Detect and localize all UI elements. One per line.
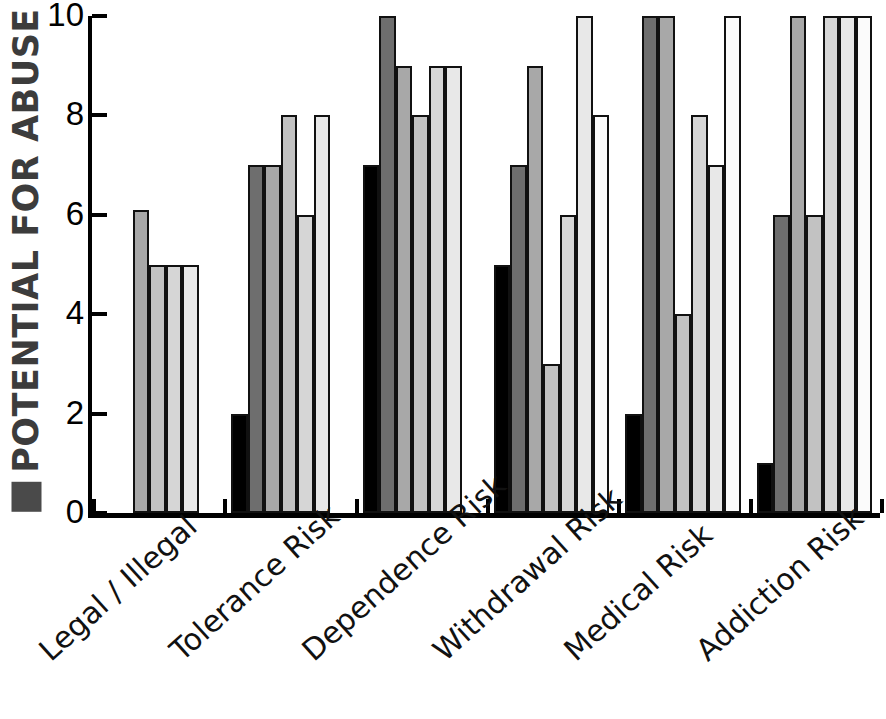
y-axis-tick-mark — [92, 412, 107, 416]
bar — [297, 215, 313, 513]
bar — [724, 16, 740, 513]
y-axis-tick-mark — [92, 113, 107, 117]
bar — [231, 414, 247, 513]
x-axis-tick-mark — [880, 499, 884, 513]
y-axis-tick-mark — [92, 14, 107, 18]
y-axis-tick-mark — [92, 312, 107, 316]
y-axis-title-label: POTENTIAL FOR ABUSE — [9, 8, 44, 473]
y-tick-label: 8 — [44, 97, 84, 130]
plot-area — [88, 16, 880, 518]
bar — [757, 463, 773, 513]
bar-chart-figure: POTENTIAL FOR ABUSE 1086420 Legal / Ille… — [0, 0, 886, 719]
bar — [412, 115, 428, 513]
y-tick-label: 10 — [44, 0, 84, 31]
x-axis-tick-mark — [92, 499, 96, 513]
bar — [264, 165, 280, 513]
bar — [314, 115, 330, 513]
bar — [133, 210, 149, 513]
y-axis-tick-mark — [92, 213, 107, 217]
bar — [642, 16, 658, 513]
bars-layer — [92, 16, 880, 513]
y-tick-label: 4 — [44, 296, 84, 329]
x-axis-category-label: Addiction Risk — [691, 502, 869, 666]
bar — [510, 165, 526, 513]
bar — [429, 66, 445, 513]
bar — [675, 314, 691, 513]
bar — [281, 115, 297, 513]
x-axis-tick-mark — [223, 499, 227, 513]
bar — [625, 414, 641, 513]
bar — [773, 215, 789, 513]
bar — [396, 66, 412, 513]
bar — [856, 16, 872, 513]
bar — [691, 115, 707, 513]
bar — [576, 16, 592, 513]
bar — [363, 165, 379, 513]
x-axis-category-labels: Legal / IllegalTolerance RiskDependence … — [0, 524, 886, 719]
bar — [823, 16, 839, 513]
bar — [790, 16, 806, 513]
bar — [543, 364, 559, 513]
y-axis-tick-labels: 1086420 — [40, 0, 84, 520]
bar — [166, 265, 182, 514]
x-axis-tick-mark — [749, 499, 753, 513]
legend-swatch-icon — [11, 482, 41, 512]
bar — [182, 265, 198, 514]
bar — [658, 16, 674, 513]
y-tick-label: 2 — [44, 396, 84, 429]
bar — [839, 16, 855, 513]
x-axis-tick-mark — [355, 499, 359, 513]
bar — [149, 265, 165, 514]
bar — [806, 215, 822, 513]
bar — [445, 66, 461, 513]
y-tick-label: 6 — [44, 197, 84, 230]
bar — [527, 66, 543, 513]
bar — [593, 115, 609, 513]
bar — [708, 165, 724, 513]
bar — [560, 215, 576, 513]
bar — [379, 16, 395, 513]
bar — [248, 165, 264, 513]
